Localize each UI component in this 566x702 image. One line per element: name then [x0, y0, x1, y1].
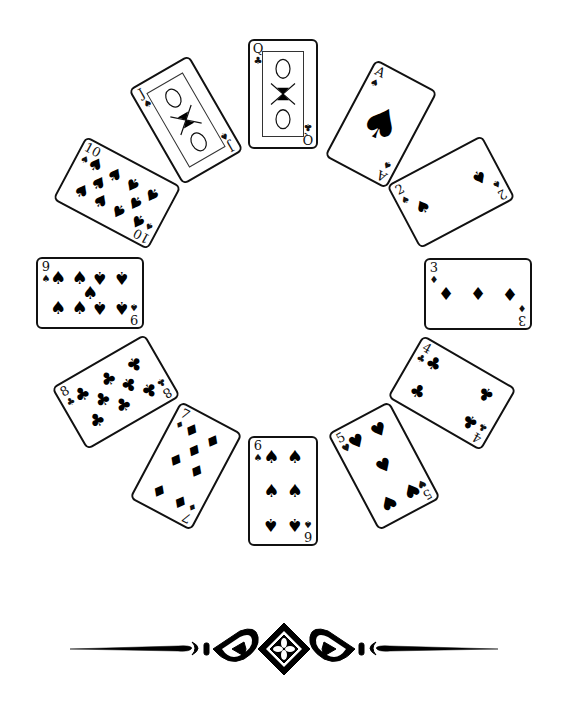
pip-area: ♦♦♦ — [438, 268, 518, 320]
clubs-icon: ♣ — [406, 379, 431, 404]
diamonds-icon: ♦ — [147, 478, 171, 502]
face-card-portrait — [262, 51, 304, 137]
diamonds-icon: ♦ — [184, 459, 208, 483]
face-card-portrait — [146, 72, 225, 167]
card-9-of-spades: 9♠9♠♠♠♠♠♠♠♠♠♠ — [36, 257, 144, 329]
clubs-icon: ♣ — [111, 392, 136, 417]
diamonds-icon: ♦ — [501, 285, 519, 303]
spades-icon: ♠ — [467, 165, 491, 189]
pip-area: ♦♦♦♦♦♦♦ — [146, 416, 225, 515]
card-8-of-clubs: 8♣8♣♣♣♣♣♣♣♣♣ — [51, 334, 181, 450]
pip-area: ♣♣♣♣♣♣♣♣ — [68, 349, 163, 434]
card-j-of-spades: J♠J♠ — [128, 55, 244, 185]
spades-icon: ♠ — [91, 269, 109, 287]
diamonds-icon: ♦ — [437, 285, 455, 303]
diamonds-icon: ♦ — [469, 285, 487, 303]
spades-icon: ♠ — [351, 94, 411, 154]
card-q-of-clubs: Q♣Q♣ — [248, 39, 318, 149]
spades-icon: ♠ — [49, 269, 67, 287]
spades-icon: ♠ — [286, 516, 304, 534]
pip-area: ♠♠ — [403, 150, 498, 233]
spades-icon: ♠ — [262, 482, 280, 500]
pip-area: ♠♠♠♠♠♠ — [262, 446, 304, 536]
clubs-icon: ♣ — [474, 382, 499, 407]
card-6-of-spades: 6♠6♠♠♠♠♠♠♠ — [248, 436, 318, 546]
spades-icon: ♠ — [286, 448, 304, 466]
hearts-icon: ♥ — [372, 454, 396, 478]
spades-icon: ♠ — [262, 448, 280, 466]
spades-icon: ♠ — [113, 269, 131, 287]
card-5-of-hearts: 5♥5♥♥♥♥♥♥ — [327, 401, 440, 531]
pip-area: ♠ — [341, 74, 420, 173]
clubs-icon: ♣ — [85, 408, 110, 433]
card-10-of-spades: 10♠10♠♠♠♠♠♠♠♠♠♠♠ — [52, 136, 181, 250]
pip-area: ♠♠♠♠♠♠♠♠♠ — [50, 267, 130, 319]
spades-icon: ♠ — [286, 482, 304, 500]
spades-icon: ♠ — [262, 516, 280, 534]
pip-area: ♥♥♥♥♥ — [344, 416, 423, 515]
hearts-icon: ♥ — [367, 418, 391, 442]
card-7-of-diamonds: 7♦7♦♦♦♦♦♦♦♦ — [129, 401, 242, 531]
diamonds-icon: ♦ — [163, 448, 187, 472]
spades-icon: ♠ — [91, 299, 109, 317]
card-2-of-spades: 2♠2♠♠♠ — [386, 135, 515, 249]
spades-icon: ♠ — [411, 195, 435, 219]
clubs-icon: ♣ — [123, 352, 148, 377]
ornament-divider — [68, 615, 500, 681]
hearts-icon: ♥ — [377, 490, 401, 514]
card-3-of-diamonds: 3♦3♦♦♦♦ — [424, 258, 532, 330]
spades-icon: ♠ — [49, 299, 67, 317]
spades-icon: ♠ — [113, 299, 131, 317]
